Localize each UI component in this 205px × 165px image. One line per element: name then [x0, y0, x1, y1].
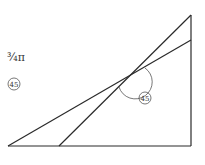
angle-circled-label: 45	[139, 92, 151, 104]
svg-text:¾π: ¾π	[7, 51, 25, 64]
shallow-line	[8, 40, 191, 146]
top-left-annotation: ¾π	[7, 51, 25, 64]
svg-text:45: 45	[10, 81, 19, 89]
geometry-diagram: ¾π 45 45	[0, 0, 205, 165]
svg-text:45: 45	[141, 95, 150, 103]
steep-line	[59, 15, 191, 146]
left-circled-label: 45	[8, 78, 20, 90]
